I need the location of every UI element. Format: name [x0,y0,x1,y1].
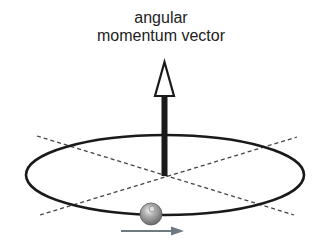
particle-sphere-icon [140,203,162,225]
motion-arrow-icon [121,227,184,236]
vector-arrowhead-icon [155,62,174,96]
vector-shaft [162,96,168,176]
angular-momentum-diagram: angular momentum vector [0,0,322,244]
diagram-graphics [0,0,322,244]
